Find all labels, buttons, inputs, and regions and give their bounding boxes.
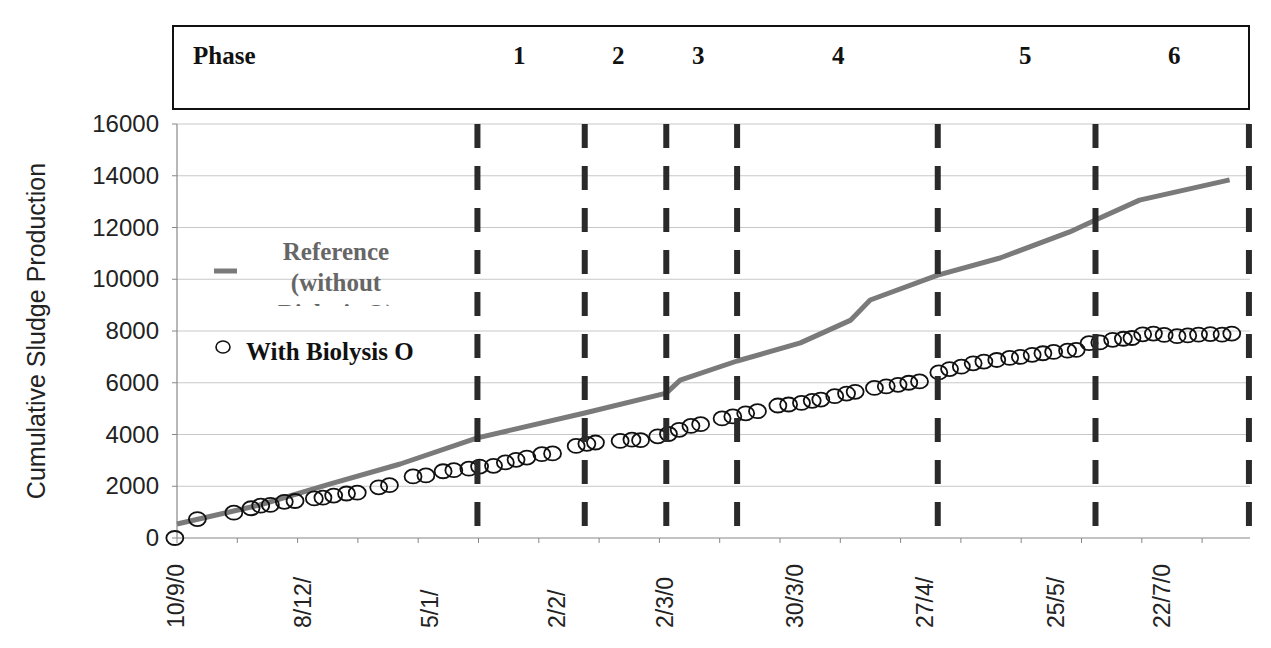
- y-tick-label: 2000: [106, 474, 159, 498]
- phase-label-4: 4: [832, 42, 845, 70]
- biolysis-data-point: [1012, 350, 1029, 364]
- biolysis-data-point: [878, 379, 895, 393]
- biolysis-data-point: [508, 453, 525, 467]
- biolysis-data-point: [417, 468, 434, 482]
- y-tick-label: 6000: [106, 371, 159, 395]
- y-tick-label: 8000: [106, 319, 159, 343]
- biolysis-data-point: [890, 378, 907, 392]
- phase-label-2: 2: [612, 42, 625, 70]
- biolysis-data-point: [749, 404, 766, 418]
- y-tick-label: 14000: [92, 164, 159, 188]
- biolysis-data-point: [953, 360, 970, 374]
- x-tick-label: 8/12/: [292, 577, 315, 628]
- x-tick-label: 25/5/: [1045, 577, 1068, 628]
- phase-label-5: 5: [1019, 42, 1032, 70]
- x-tick-label: 2/3/0: [654, 577, 677, 628]
- phase-label-6: 6: [1168, 42, 1181, 70]
- biolysis-data-point: [911, 374, 928, 388]
- phase-label-1: 1: [513, 42, 526, 70]
- x-tick-label: 30/3/0: [784, 564, 807, 628]
- biolysis-data-point: [793, 396, 810, 410]
- x-tick-label: 2/2/: [546, 590, 569, 628]
- y-tick-label: 16000: [92, 112, 159, 136]
- biolysis-data-point: [370, 480, 387, 494]
- x-tick-label: 5/1/: [419, 590, 442, 628]
- legend-biolysis-marker: [216, 341, 230, 353]
- y-tick-label: 10000: [92, 267, 159, 291]
- biolysis-data-point: [381, 478, 398, 492]
- y-tick-label: 0: [146, 526, 159, 550]
- legend-reference-label: Reference (without Biolysis O): [262, 236, 410, 306]
- y-tick-label: 4000: [106, 423, 159, 447]
- legend-reference-line-2: (without: [262, 267, 410, 298]
- biolysis-data-point: [1223, 327, 1240, 341]
- phase-label-3: 3: [692, 42, 705, 70]
- biolysis-data-point: [941, 362, 958, 376]
- y-tick-label: 12000: [92, 216, 159, 240]
- phase-header-box: [172, 25, 1250, 110]
- phase-header-title: Phase: [193, 42, 256, 70]
- legend-reference-line-3: Biolysis O): [262, 298, 410, 306]
- biolysis-data-point: [612, 434, 629, 448]
- x-tick-label: 10/9/0: [165, 564, 188, 628]
- biolysis-data-point: [349, 486, 366, 500]
- y-axis-title: Cumulative Sludge Production: [22, 163, 51, 499]
- biolysis-data-point: [692, 417, 709, 431]
- biolysis-data-point: [497, 455, 514, 469]
- x-tick-label: 27/4/: [914, 577, 937, 628]
- legend-reference-line-1: Reference: [262, 236, 410, 267]
- x-tick-label: 22/7/0: [1151, 564, 1174, 628]
- biolysis-data-point: [544, 446, 561, 460]
- biolysis-data-point: [714, 411, 731, 425]
- legend-biolysis-label: With Biolysis O: [246, 338, 414, 366]
